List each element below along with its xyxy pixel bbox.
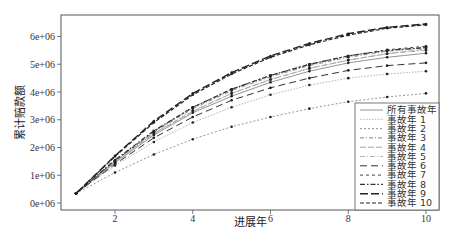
chart: 0e+061e+062e+063e+064e+065e+066e+06 2468…: [0, 0, 454, 246]
y-tick-label: 3e+06: [30, 114, 55, 125]
x-tick-label: 6: [268, 213, 273, 224]
data-point: [425, 49, 428, 52]
legend-label: 事故年 10: [387, 197, 432, 208]
data-point: [191, 106, 194, 109]
x-tick-label: 8: [346, 213, 351, 224]
data-point: [347, 100, 350, 103]
y-axis-title: 累计赔款额: [13, 85, 27, 140]
data-point: [191, 138, 194, 141]
data-point: [230, 99, 233, 102]
data-point: [425, 92, 428, 95]
data-point: [230, 95, 233, 98]
data-point: [230, 92, 233, 95]
data-point: [153, 130, 156, 133]
data-point: [347, 69, 350, 72]
data-point: [347, 55, 350, 58]
data-point: [230, 73, 233, 76]
data-point: [153, 121, 156, 124]
data-point: [347, 59, 350, 62]
data-point: [191, 110, 194, 113]
data-point: [114, 159, 117, 162]
data-point: [386, 64, 389, 67]
data-point: [269, 93, 272, 96]
data-point: [386, 96, 389, 99]
legend: 所有事故年事故年 1事故年 2事故年 3事故年 4事故年 5事故年 6事故年 7…: [355, 103, 439, 210]
data-point: [230, 88, 233, 91]
data-point: [269, 116, 272, 119]
x-tick-label: 10: [421, 213, 431, 224]
data-point: [347, 77, 350, 80]
data-point: [386, 56, 389, 59]
y-axis: 0e+061e+062e+063e+064e+065e+066e+06: [30, 31, 61, 209]
data-point: [191, 93, 194, 96]
data-point: [425, 70, 428, 73]
data-point: [191, 121, 194, 124]
data-point: [308, 70, 311, 73]
data-point: [230, 125, 233, 128]
data-point: [308, 107, 311, 110]
data-point: [153, 141, 156, 144]
y-tick-label: 4e+06: [30, 87, 55, 98]
data-point: [308, 77, 311, 80]
data-point: [191, 116, 194, 119]
x-tick-label: 2: [113, 213, 118, 224]
data-point: [269, 81, 272, 84]
data-point: [153, 153, 156, 156]
data-point: [308, 44, 311, 47]
data-point: [347, 62, 350, 65]
y-tick-label: 1e+06: [30, 170, 55, 181]
y-tick-label: 0e+06: [30, 198, 55, 209]
data-point: [347, 34, 350, 37]
data-point: [308, 63, 311, 66]
data-point: [425, 24, 428, 27]
data-point: [153, 136, 156, 139]
y-tick-label: 2e+06: [30, 142, 55, 153]
data-point: [75, 192, 78, 195]
data-point: [308, 84, 311, 87]
y-tick-label: 5e+06: [30, 59, 55, 70]
data-point: [425, 52, 428, 55]
x-axis: 246810: [113, 210, 432, 224]
x-tick-label: 4: [190, 213, 195, 224]
data-point: [269, 56, 272, 59]
data-point: [269, 78, 272, 81]
data-point: [386, 49, 389, 52]
data-point: [230, 106, 233, 109]
data-point: [114, 171, 117, 174]
data-point: [269, 87, 272, 90]
data-point: [114, 163, 117, 166]
data-point: [269, 74, 272, 77]
data-point: [308, 67, 311, 70]
y-tick-label: 6e+06: [30, 31, 55, 42]
data-point: [386, 73, 389, 76]
data-point: [386, 52, 389, 55]
data-point: [386, 27, 389, 30]
data-point: [425, 62, 428, 65]
x-axis-title: 进展年: [234, 215, 267, 229]
data-point: [425, 46, 428, 49]
data-point: [114, 155, 117, 158]
